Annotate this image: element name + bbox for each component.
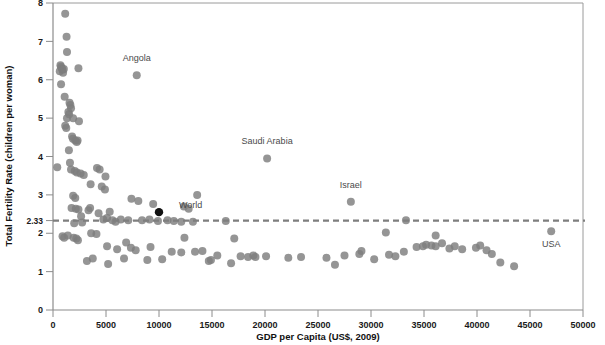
data-point — [74, 236, 82, 244]
data-point — [322, 254, 330, 262]
data-point — [547, 227, 555, 235]
data-point — [80, 171, 88, 179]
data-point — [53, 163, 61, 171]
y-tick-label: 3 — [38, 190, 43, 200]
data-point — [451, 242, 459, 250]
x-tick-label: 30000 — [358, 320, 383, 330]
data-point — [198, 247, 206, 255]
y-tick-label: 0 — [38, 305, 43, 315]
data-point — [432, 232, 440, 240]
data-point — [331, 261, 339, 269]
data-point — [120, 255, 128, 263]
x-tick-label: 40000 — [464, 320, 489, 330]
data-point — [251, 253, 259, 261]
data-point — [74, 205, 82, 213]
data-point — [158, 255, 166, 263]
data-point — [70, 219, 78, 227]
data-point — [92, 230, 100, 238]
data-point — [496, 258, 504, 266]
data-point — [86, 204, 94, 212]
x-tick-label: 25000 — [305, 320, 330, 330]
data-point — [400, 248, 408, 256]
data-point — [63, 33, 71, 41]
data-point — [89, 255, 97, 263]
data-point — [74, 64, 82, 72]
data-point — [168, 248, 176, 256]
data-point — [191, 248, 199, 256]
data-point — [124, 216, 132, 224]
data-point — [382, 228, 390, 236]
data-point — [122, 238, 130, 246]
data-point — [75, 117, 83, 125]
data-point — [438, 239, 446, 247]
data-point — [177, 248, 185, 256]
data-point — [71, 194, 79, 202]
y-tick-label: 5 — [38, 113, 43, 123]
annotation-label-angola: Angola — [123, 53, 151, 63]
annotation-label-israel: Israel — [340, 180, 362, 190]
data-point — [62, 124, 70, 132]
data-point — [170, 217, 178, 225]
data-point — [510, 262, 518, 270]
y-tick-label: 8 — [38, 0, 43, 8]
data-point — [57, 80, 65, 88]
data-point — [74, 136, 82, 144]
data-point — [154, 217, 162, 225]
data-point — [143, 256, 151, 264]
data-point — [104, 260, 112, 268]
y-tick-label: 2.33 — [26, 216, 43, 226]
data-point — [189, 218, 197, 226]
data-point — [177, 218, 185, 226]
data-point — [101, 186, 109, 194]
y-tick-label: 7 — [38, 37, 43, 47]
data-point — [347, 198, 355, 206]
y-axis-title: Total Fertility Rate (children per woman… — [3, 66, 14, 247]
data-point — [180, 234, 188, 242]
data-point — [145, 215, 153, 223]
y-axis-ticks: 0122.33345678 — [26, 0, 53, 315]
data-point — [193, 191, 201, 199]
data-point — [147, 243, 155, 251]
data-point — [127, 195, 135, 203]
data-point — [391, 252, 399, 260]
data-point — [61, 10, 69, 18]
data-point — [230, 235, 238, 243]
x-tick-label: 0 — [50, 320, 55, 330]
data-point — [227, 259, 235, 267]
y-tick-label: 1 — [38, 267, 43, 277]
annotation-label-world: World — [179, 200, 202, 210]
x-tick-label: 15000 — [199, 320, 224, 330]
scatter-chart: 0122.33345678 05000100001500020000250003… — [0, 0, 605, 345]
data-point — [103, 242, 111, 250]
data-point — [222, 217, 230, 225]
data-points — [53, 10, 555, 271]
data-point — [355, 250, 363, 258]
y-tick-label: 2 — [38, 228, 43, 238]
x-tick-label: 35000 — [411, 320, 436, 330]
data-point — [132, 246, 140, 254]
data-point — [297, 253, 305, 261]
data-point — [341, 252, 349, 260]
y-tick-label: 6 — [38, 75, 43, 85]
data-point — [458, 245, 466, 253]
data-point — [237, 252, 245, 260]
data-point — [488, 250, 496, 258]
annotation-label-saudi-arabia: Saudi Arabia — [242, 136, 293, 146]
data-point — [101, 172, 109, 180]
data-point — [133, 71, 141, 79]
x-axis-ticks: 0500010000150002000025000300003500040000… — [50, 310, 595, 330]
data-point — [112, 218, 120, 226]
data-point — [207, 256, 215, 264]
data-point — [60, 65, 68, 73]
y-tick-label: 4 — [38, 152, 43, 162]
x-tick-label: 10000 — [146, 320, 171, 330]
data-point — [402, 216, 410, 224]
data-point — [149, 200, 157, 208]
data-point — [96, 166, 104, 174]
data-point — [113, 245, 121, 253]
data-point — [134, 197, 142, 205]
data-point — [263, 154, 271, 162]
data-point — [138, 216, 146, 224]
x-axis-title: GDP per Capita (US$, 2009) — [256, 331, 379, 342]
x-tick-label: 5000 — [96, 320, 116, 330]
